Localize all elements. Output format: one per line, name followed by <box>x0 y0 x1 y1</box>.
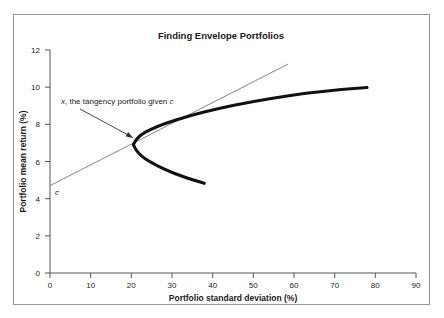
x-tick-label: 60 <box>290 281 299 290</box>
frontier-lower-branch <box>133 145 204 184</box>
tangency-annotation-c: c <box>170 97 174 106</box>
x-tick-label: 0 <box>48 281 53 290</box>
x-tick-label: 30 <box>168 281 177 290</box>
x-tick-label: 40 <box>208 281 217 290</box>
x-tick-label: 70 <box>330 281 339 290</box>
y-tick-label: 2 <box>36 232 41 241</box>
y-tick-label: 6 <box>36 158 41 167</box>
y-axis-ticks <box>45 50 50 273</box>
tangent-line <box>50 64 288 186</box>
x-tick-label: 10 <box>86 281 95 290</box>
y-tick-label: 10 <box>31 83 40 92</box>
x-tick-label: 80 <box>371 281 380 290</box>
x-axis-title: Portfolio standard deviation (%) <box>169 293 298 303</box>
y-axis-tick-labels: 12 10 8 6 4 2 0 <box>31 46 40 278</box>
annotation-arrow-shaft <box>80 109 130 136</box>
annotation-arrow-head <box>126 132 134 138</box>
intercept-c-label: c <box>55 188 59 197</box>
y-tick-label: 12 <box>31 46 40 55</box>
y-tick-label: 4 <box>36 195 41 204</box>
x-axis-ticks <box>50 273 416 278</box>
y-tick-label: 0 <box>36 269 41 278</box>
x-tick-label: 50 <box>249 281 258 290</box>
scan-top-clipped-text <box>10 0 310 9</box>
chart-plot-area: Finding Envelope Portfolios 12 10 8 6 <box>14 15 429 304</box>
tangency-annotation: x, the tangency portfolio given c <box>60 97 174 106</box>
figure-frame: Finding Envelope Portfolios 12 10 8 6 <box>13 14 430 305</box>
tangency-annotation-mid: , the tangency portfolio given <box>65 97 170 106</box>
y-tick-label: 8 <box>36 120 41 129</box>
x-tick-label: 90 <box>412 281 421 290</box>
y-axis-title: Portfolio mean return (%) <box>18 110 28 212</box>
x-tick-label: 20 <box>127 281 136 290</box>
x-axis-tick-labels: 0 10 20 30 40 50 60 70 80 90 <box>48 281 421 290</box>
chart-title: Finding Envelope Portfolios <box>158 30 284 41</box>
figure-root: Finding Envelope Portfolios 12 10 8 6 <box>0 0 444 318</box>
